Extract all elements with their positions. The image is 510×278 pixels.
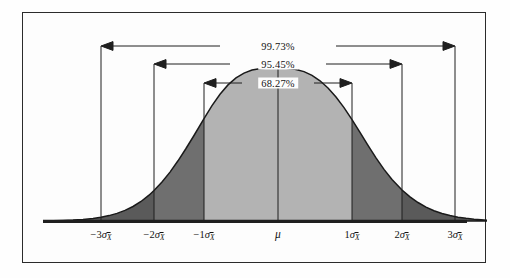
normal-distribution-plot xyxy=(23,13,487,264)
interval-label-99: 99.73% xyxy=(258,41,298,52)
x-tick-label-plus2sigma: 2σX xyxy=(395,229,410,242)
x-tick-label-minus3sigma: −3σX xyxy=(91,229,112,242)
x-tick-label-minus2sigma: −2σX xyxy=(144,229,165,242)
x-tick-label-plus3sigma: 3σX xyxy=(448,229,463,242)
sigma-gridlines xyxy=(101,46,455,221)
shaded-area-inner xyxy=(43,68,487,221)
interval-label-95: 95.45% xyxy=(258,59,298,70)
figure-frame: 99.73% 95.45% 68.27% −3σX −2σX −1σX μ 1σ… xyxy=(22,12,486,263)
x-tick-label-minus1sigma: −1σX xyxy=(194,229,215,242)
interval-label-68: 68.27% xyxy=(258,78,298,89)
x-tick-label-plus1sigma: 1σX xyxy=(345,229,360,242)
x-tick-label-mu: μ xyxy=(275,228,281,240)
